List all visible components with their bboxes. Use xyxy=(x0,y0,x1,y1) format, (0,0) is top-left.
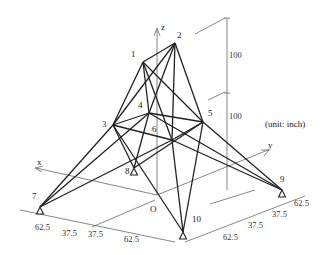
truss-members xyxy=(40,43,282,232)
member-3-8 xyxy=(113,125,134,168)
member-2-4 xyxy=(149,43,175,113)
space-truss-diagram: 100 100 62.5 37.5 37.5 62.5 62.5 37.5 37… xyxy=(0,0,334,255)
support-triangle-icon xyxy=(180,232,187,239)
dim-x-4: 62.5 xyxy=(124,234,139,244)
vertical-dimension: 100 100 xyxy=(195,18,242,190)
node-label-1: 1 xyxy=(131,49,136,59)
node-label-7: 7 xyxy=(32,191,37,201)
dim-y-1: 62.5 xyxy=(223,232,238,242)
support-triangle-icon xyxy=(37,207,44,214)
member-1-3 xyxy=(113,62,143,125)
dim-y-3: 37.5 xyxy=(272,209,287,219)
dim-vertical-lower: 100 xyxy=(229,111,242,121)
member-4-9 xyxy=(149,113,282,190)
support-triangle-icon xyxy=(131,168,138,175)
member-1-2 xyxy=(143,43,175,62)
axis-x-label: x xyxy=(37,157,42,167)
dim-y-2: 37.5 xyxy=(248,220,263,230)
node-label-10: 10 xyxy=(192,214,202,224)
member-2-5 xyxy=(175,43,203,122)
dim-x-1: 62.5 xyxy=(35,222,50,232)
node-label-3: 3 xyxy=(102,119,107,129)
origin-label: O xyxy=(150,204,157,214)
dim-vertical-upper: 100 xyxy=(229,50,242,60)
node-label-6: 6 xyxy=(152,124,157,134)
node-label-2: 2 xyxy=(177,30,182,40)
axis-y-label: y xyxy=(268,140,273,150)
node-label-8: 8 xyxy=(125,166,130,176)
dim-x-3: 37.5 xyxy=(88,229,103,239)
member-5-9 xyxy=(203,122,282,190)
axis-z-label: z xyxy=(161,22,165,32)
dim-x-2: 37.5 xyxy=(62,228,77,238)
node-label-5: 5 xyxy=(208,108,213,118)
node-label-4: 4 xyxy=(138,100,143,110)
dim-y-4: 62.5 xyxy=(294,198,309,208)
base-dimensions: 62.5 37.5 37.5 62.5 62.5 37.5 37.5 62.5 xyxy=(20,190,309,244)
support-triangle-icon xyxy=(279,190,286,197)
unit-label: (unit: inch) xyxy=(265,119,305,129)
node-label-9: 9 xyxy=(280,174,285,184)
member-3-7 xyxy=(40,125,113,207)
